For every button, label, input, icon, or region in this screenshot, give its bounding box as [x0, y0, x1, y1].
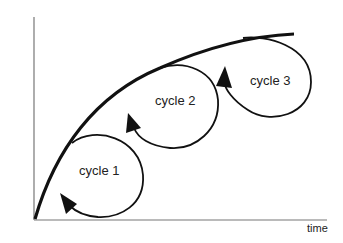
improvement-curve: [35, 34, 294, 219]
diagram-canvas: quality improvement time cycle 1 cycle 2…: [0, 0, 343, 243]
cycle-1-arrowhead-icon: [60, 193, 77, 214]
diagram-svg: [0, 0, 343, 243]
cycle-3-label: cycle 3: [250, 73, 290, 88]
cycle-2-arrowhead-icon: [126, 113, 141, 133]
cycle-1-label: cycle 1: [79, 163, 119, 178]
cycle-3-arrowhead-icon: [216, 66, 232, 88]
cycle-2-label: cycle 2: [155, 93, 195, 108]
x-axis-label: time: [307, 222, 328, 234]
